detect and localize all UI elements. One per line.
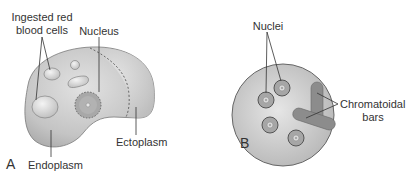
cyst-nucleus: [258, 92, 274, 108]
cyst-nucleus: [262, 117, 278, 133]
karyosome: [86, 103, 90, 107]
ingested-rbc-small: [44, 68, 60, 80]
label-chromatoidal-line2: bars: [362, 111, 384, 123]
panel-letter-b: B: [240, 135, 249, 151]
label-ectoplasm: Ectoplasm: [116, 136, 167, 148]
label-nuclei: Nuclei: [253, 20, 284, 32]
vacuole-small: [71, 61, 80, 70]
label-chromatoidal-line1: Chromatoidal: [340, 98, 405, 110]
panel-a-trophozoite: Ingested red blood cells Nucleus Ectopla…: [6, 11, 167, 172]
cyst-nucleus: [274, 80, 290, 96]
label-ingested-line1: Ingested red: [11, 11, 72, 23]
cyst-nucleus: [288, 130, 304, 146]
diagram-canvas: Ingested red blood cells Nucleus Ectopla…: [0, 0, 411, 175]
label-nucleus: Nucleus: [79, 25, 119, 37]
label-ingested-line2: blood cells: [16, 24, 68, 36]
panel-b-cyst: Nuclei Chromatoidal bars B: [232, 20, 405, 166]
panel-letter-a: A: [6, 156, 16, 172]
label-endoplasm: Endoplasm: [28, 159, 83, 171]
